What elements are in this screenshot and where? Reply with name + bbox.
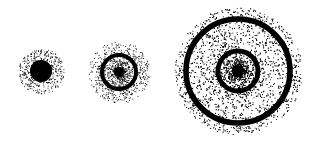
orbital-density-plots [0, 0, 320, 143]
orbital-diagram [0, 0, 320, 143]
